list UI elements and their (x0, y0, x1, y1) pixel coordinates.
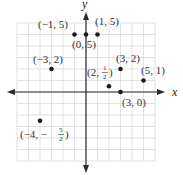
x-axis-right-arrow-icon (157, 89, 165, 95)
point-label-fraction: (−4, − 5 2 ) (20, 126, 69, 143)
svg-text:(2,: (2, (87, 66, 99, 79)
point-neg3-2 (49, 67, 54, 72)
axes: x y (7, 0, 178, 173)
svg-text:2: 2 (103, 73, 107, 81)
y-axis-label: y (81, 0, 88, 11)
point-label: (0, 5) (72, 38, 96, 51)
point-label: (1, 5) (95, 15, 119, 28)
point-label: (3, 2) (116, 52, 140, 65)
point-label: (−3, 2) (33, 53, 63, 66)
svg-text:5: 5 (59, 126, 63, 134)
x-axis-left-arrow-icon (7, 89, 15, 95)
y-axis-up-arrow-icon (83, 12, 89, 20)
svg-text:): ) (65, 128, 69, 141)
point-neg1-5 (72, 32, 77, 37)
point-0-5 (84, 32, 89, 37)
coordinate-plane: x y (−1, 5) (0, 5) (1, 5) (−3, 2) (3, 2)… (0, 0, 183, 175)
point-5-1 (141, 78, 146, 83)
svg-text:1: 1 (103, 64, 107, 72)
x-axis-label: x (171, 85, 178, 99)
point-3-0 (118, 90, 123, 95)
point-3-2 (118, 67, 123, 72)
point-1-5 (95, 32, 100, 37)
point-label: (5, 1) (141, 64, 165, 77)
point-neg4-neg5half (38, 118, 43, 123)
point-2-half (107, 84, 112, 89)
svg-text:2: 2 (59, 135, 63, 143)
y-axis-down-arrow-icon (83, 165, 89, 173)
point-label: (−1, 5) (38, 18, 68, 31)
svg-text:): ) (109, 66, 113, 79)
point-label: (3, 0) (122, 96, 146, 109)
svg-text:(−4, −: (−4, − (20, 128, 47, 141)
